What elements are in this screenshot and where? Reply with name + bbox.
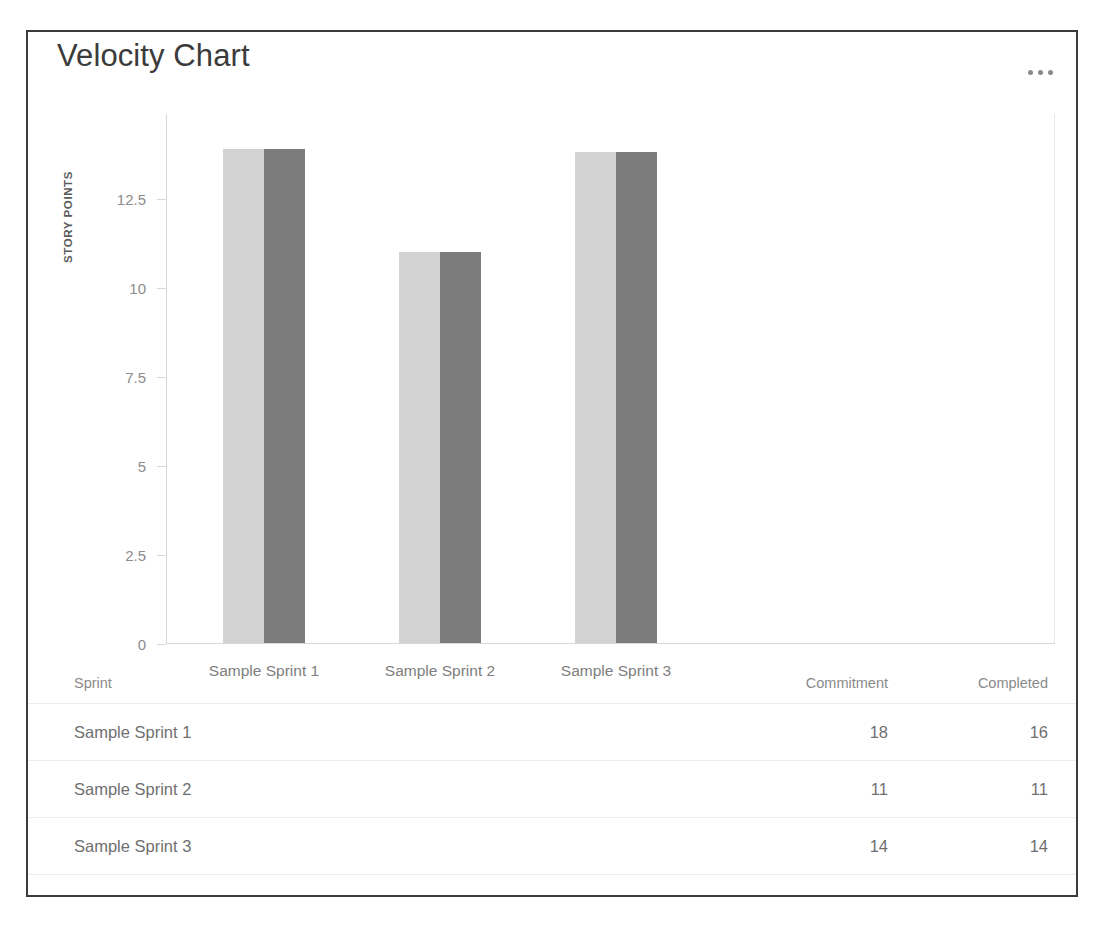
y-axis-line	[166, 114, 167, 644]
y-axis-tick-label: 12.5	[117, 191, 146, 208]
column-header-completed: Completed	[888, 675, 1048, 691]
table-row[interactable]: Sample Sprint 11816	[28, 704, 1076, 761]
y-axis-tick: 7.5	[157, 377, 166, 378]
ellipsis-dot-2	[1038, 70, 1043, 75]
y-axis-title: STORY POINTS	[62, 245, 74, 263]
bar-commitment[interactable]	[399, 252, 440, 643]
bar-completed[interactable]	[264, 149, 305, 643]
cell-commitment: 11	[708, 780, 888, 799]
cell-sprint-name: Sample Sprint 1	[74, 723, 191, 742]
velocity-table: Sprint Commitment Completed Sample Sprin…	[28, 662, 1076, 875]
cell-completed: 14	[888, 837, 1048, 856]
cell-commitment: 14	[708, 837, 888, 856]
y-axis-tick-label: 5	[138, 458, 146, 475]
ellipsis-dot-3	[1048, 70, 1053, 75]
x-axis-line	[166, 643, 1055, 644]
y-axis-tick-label: 0	[138, 636, 146, 653]
column-header-sprint: Sprint	[74, 675, 112, 691]
ellipsis-icon[interactable]	[1022, 62, 1058, 82]
bar-group[interactable]	[223, 149, 305, 643]
table-row[interactable]: Sample Sprint 21111	[28, 761, 1076, 818]
page-title: Velocity Chart	[57, 38, 250, 74]
chart-area: STORY POINTS 12.5107.552.50Sample Sprint…	[28, 98, 1076, 688]
bar-commitment[interactable]	[575, 152, 616, 643]
velocity-chart-page: Velocity Chart STORY POINTS 12.5107.552.…	[0, 0, 1104, 929]
y-axis-tick: 0	[157, 644, 166, 645]
y-axis-tick-label: 10	[129, 280, 146, 297]
bar-completed[interactable]	[440, 252, 481, 643]
y-axis-tick: 2.5	[157, 555, 166, 556]
table-body: Sample Sprint 11816Sample Sprint 21111Sa…	[28, 704, 1076, 875]
cell-commitment: 18	[708, 723, 888, 742]
y-axis-tick: 5	[157, 466, 166, 467]
table-row[interactable]: Sample Sprint 31414	[28, 818, 1076, 875]
y-axis-tick: 12.5	[157, 199, 166, 200]
cell-completed: 11	[888, 780, 1048, 799]
bar-completed[interactable]	[616, 152, 657, 643]
cell-sprint-name: Sample Sprint 3	[74, 837, 191, 856]
y-axis-tick-label: 2.5	[125, 547, 146, 564]
ellipsis-dot-1	[1028, 70, 1033, 75]
plot-area: 12.5107.552.50Sample Sprint 1Sample Spri…	[166, 114, 1055, 644]
table-header-row: Sprint Commitment Completed	[28, 662, 1076, 704]
column-header-commitment: Commitment	[708, 675, 888, 691]
y-axis-tick: 10	[157, 288, 166, 289]
bar-group[interactable]	[399, 252, 481, 643]
cell-completed: 16	[888, 723, 1048, 742]
cell-sprint-name: Sample Sprint 2	[74, 780, 191, 799]
card-header: Velocity Chart	[28, 32, 1076, 98]
velocity-chart-card: Velocity Chart STORY POINTS 12.5107.552.…	[26, 30, 1078, 897]
y-axis-tick-label: 7.5	[125, 369, 146, 386]
bar-group[interactable]	[575, 152, 657, 643]
bar-commitment[interactable]	[223, 149, 264, 643]
